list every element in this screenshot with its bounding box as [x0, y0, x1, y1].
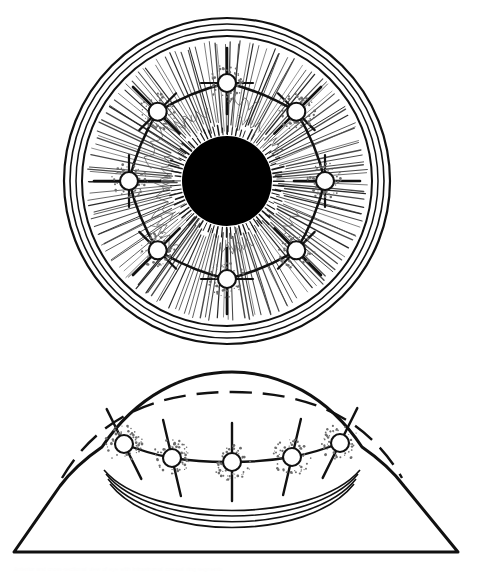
bead-stipple	[160, 452, 162, 454]
bead-stipple	[216, 264, 217, 265]
bead-stipple	[175, 445, 178, 448]
pupil-margin-fiber	[175, 176, 181, 177]
bead-stipple	[208, 284, 210, 286]
bead-stipple	[326, 448, 327, 449]
bead-stipple	[339, 456, 341, 458]
bead-stipple	[284, 259, 285, 260]
bead-stipple	[311, 253, 312, 254]
bead-stipple	[149, 242, 151, 244]
bead-stipple	[130, 458, 133, 461]
bead-stipple	[164, 258, 167, 261]
bead-stipple	[111, 176, 113, 178]
bead-stipple	[141, 245, 142, 246]
bead-stipple	[320, 164, 322, 166]
bead-stipple	[303, 258, 304, 259]
bead-stipple	[232, 473, 234, 475]
bead-stipple	[168, 256, 171, 259]
bead-stipple	[235, 67, 237, 69]
bead-stipple	[138, 442, 140, 444]
bead-stipple	[143, 101, 145, 103]
bead-body	[149, 103, 167, 121]
bead-stipple	[284, 243, 286, 245]
bead-stipple	[283, 249, 285, 251]
bead-stipple	[279, 449, 281, 451]
bead-body	[120, 172, 138, 190]
bead-stipple	[295, 125, 296, 126]
bead-stipple	[344, 455, 345, 456]
bead-stipple	[227, 475, 228, 476]
bead-stipple	[137, 169, 139, 171]
bead-stipple	[350, 456, 352, 458]
bead-stipple	[137, 446, 138, 447]
bead-stipple	[335, 184, 336, 185]
bead-stipple	[333, 451, 336, 454]
bead-stipple	[138, 451, 140, 453]
bead-stipple	[116, 167, 119, 170]
bead-stipple	[209, 276, 211, 278]
bead-stipple	[320, 190, 321, 191]
pupil-margin-fiber	[273, 176, 281, 177]
bead-stipple	[305, 468, 307, 470]
bead-stipple	[161, 96, 164, 99]
bead-stipple	[183, 444, 185, 446]
bead-stipple	[211, 73, 213, 75]
bead-stipple	[300, 127, 301, 128]
bead-stipple	[136, 445, 138, 447]
bead-stipple	[121, 193, 123, 195]
bead-stipple	[135, 449, 137, 451]
bead-stipple	[307, 238, 309, 240]
bead-body	[218, 74, 236, 92]
bead-stipple	[230, 66, 232, 68]
bead-stipple	[155, 449, 156, 450]
bead-stipple	[227, 100, 228, 101]
bead-stipple	[239, 92, 241, 94]
bead-stipple	[313, 117, 315, 119]
bead-stipple	[215, 282, 216, 283]
bead-stipple	[289, 128, 290, 129]
bead-stipple	[325, 432, 327, 434]
bead-stipple	[159, 98, 161, 100]
bead-stipple	[105, 437, 108, 440]
bead-stipple	[233, 93, 236, 96]
bead-stipple	[186, 451, 187, 452]
bead-body	[223, 453, 241, 471]
bead-stipple	[292, 440, 294, 442]
bead-stipple	[116, 454, 118, 456]
bead-stipple	[142, 109, 143, 110]
bead-stipple	[112, 438, 115, 441]
bead-stipple	[147, 117, 149, 119]
bead-stipple	[230, 290, 231, 291]
bead-stipple	[177, 470, 180, 473]
bead-stipple	[279, 454, 280, 455]
bead-stipple	[334, 167, 335, 168]
bead-stipple	[130, 194, 132, 196]
bead-stipple	[134, 190, 136, 192]
bead-stipple	[117, 183, 118, 184]
bead-stipple	[287, 264, 290, 267]
bead-stipple	[328, 193, 330, 195]
bead-stipple	[288, 260, 291, 263]
bead-stipple	[115, 173, 117, 175]
bead-stipple	[121, 426, 122, 427]
bead-stipple	[215, 471, 217, 473]
bead-stipple	[243, 473, 244, 474]
bead-stipple	[283, 470, 285, 472]
bead-stipple	[296, 237, 298, 239]
bead-stipple	[185, 459, 188, 462]
bead-stipple	[120, 431, 122, 433]
bead-stipple	[214, 292, 216, 294]
pupil-margin-fiber	[273, 185, 283, 186]
bead-stipple	[249, 460, 251, 462]
bead-stipple	[220, 264, 223, 267]
bead-stipple	[218, 468, 219, 469]
bead-stipple	[160, 93, 163, 96]
bead-stipple	[171, 469, 172, 470]
bead-stipple	[229, 477, 230, 478]
pupil	[182, 136, 272, 226]
bead-stipple	[172, 439, 174, 441]
bead-stipple	[118, 432, 121, 435]
bead-stipple	[239, 82, 241, 84]
bead-stipple	[157, 265, 159, 267]
bead-stipple	[319, 194, 321, 196]
bead-stipple	[162, 469, 165, 472]
